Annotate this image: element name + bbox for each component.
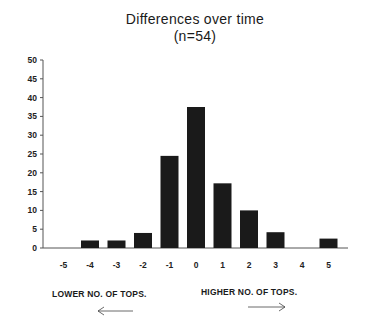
x-tick-label: 0 (194, 260, 199, 270)
y-tick-label: 5 (32, 224, 37, 234)
bar (240, 210, 258, 248)
x-tick-label: 2 (247, 260, 252, 270)
x-tick-label: -1 (166, 260, 174, 270)
y-tick-label: 30 (28, 130, 38, 140)
y-tick-label: 40 (28, 93, 38, 103)
y-tick-label: 15 (28, 187, 38, 197)
y-tick-label: 50 (28, 55, 38, 65)
x-tick-label: -4 (86, 260, 94, 270)
y-tick-label: 35 (28, 111, 38, 121)
bar (214, 183, 232, 248)
x-tick-label: 1 (220, 260, 225, 270)
bar-chart: 05101520253035404550-5-4-3-2-1012345 (0, 0, 370, 327)
x-tick-label: 3 (273, 260, 278, 270)
x-tick-label: -3 (113, 260, 121, 270)
y-tick-label: 20 (28, 168, 38, 178)
bar (187, 107, 205, 248)
annotation-lower: LOWER NO. OF TOPS. (52, 289, 147, 299)
bar (134, 233, 152, 248)
bar (267, 232, 285, 248)
bar (320, 239, 338, 248)
x-tick-label: 4 (300, 260, 305, 270)
bar (81, 240, 99, 248)
y-tick-label: 45 (28, 74, 38, 84)
x-tick-label: -5 (60, 260, 68, 270)
y-tick-label: 0 (32, 243, 37, 253)
annotation-higher: HIGHER NO. OF TOPS. (201, 287, 297, 297)
y-tick-label: 25 (28, 149, 38, 159)
y-tick-label: 10 (28, 205, 38, 215)
x-tick-label: 5 (326, 260, 331, 270)
bar (108, 240, 126, 248)
bar (161, 156, 179, 248)
x-tick-label: -2 (139, 260, 147, 270)
